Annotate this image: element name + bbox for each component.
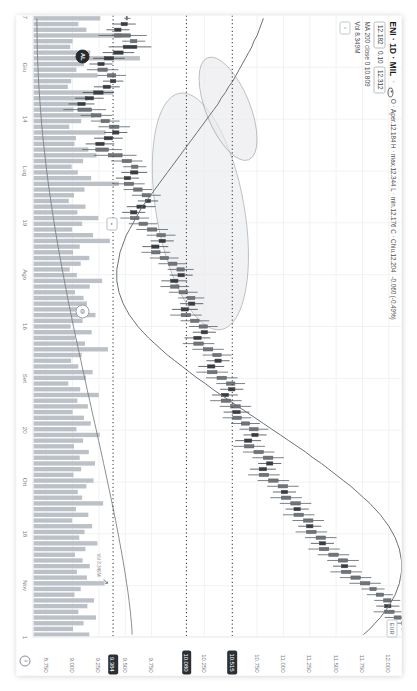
time-tick-label: 17 xyxy=(21,16,28,19)
time-tick-label: Giu xyxy=(21,63,28,73)
time-tick-label: Ago xyxy=(21,269,28,280)
price-tick-label: 11.750 xyxy=(359,655,366,673)
price-tick-label: 11.250 xyxy=(306,655,313,673)
price-tick-label: 9.500 xyxy=(121,658,128,673)
quote-badge[interactable]: 12.312 xyxy=(373,67,385,94)
price-tick-label: 9.250 xyxy=(95,658,102,673)
eye-chip-icon[interactable]: ◎ xyxy=(75,305,89,319)
time-tick-label: 18 xyxy=(21,530,28,537)
change-percent: 0.10 xyxy=(375,51,383,63)
time-tick-label: 19 xyxy=(21,219,28,226)
currency-badge: EUR xyxy=(386,620,397,638)
chart-legend: ENI · 1D · MIL · O · Aper.12.184 H · max… xyxy=(339,22,397,320)
magnet-chip[interactable]: AL xyxy=(75,50,89,64)
marker-note: Vol 8.349M xyxy=(95,554,100,577)
price-tick-label: 10.750 xyxy=(253,654,260,672)
screenshot-frame: 12.00011.75011.50011.25011.00010.75010.2… xyxy=(0,0,417,691)
last-price-pill[interactable]: 12.182 xyxy=(373,22,385,49)
time-tick-label: Ott xyxy=(21,478,28,486)
time-tick-label: Lug xyxy=(21,166,28,176)
ma-indicator-label[interactable]: MA 200 close 0 10.809 xyxy=(362,22,370,320)
time-tick-label: Nov xyxy=(21,580,28,591)
price-tick-label: 8.750 xyxy=(42,658,49,673)
price-level-badge[interactable]: 9.384 xyxy=(108,654,117,674)
ohlc-readout: O · Aper.12.184 H · max.12.344 L · min.1… xyxy=(388,99,396,272)
chart-app: 12.00011.75011.50011.25011.00010.75010.2… xyxy=(16,16,401,676)
price-tick-label: 11.500 xyxy=(332,655,339,673)
time-tick-label: 14 xyxy=(21,116,28,123)
price-level-badge[interactable]: 10.080 xyxy=(181,651,190,674)
rotated-phone-screen: 12.00011.75011.50011.25011.00010.75010.2… xyxy=(16,16,401,676)
time-tick-label: Set xyxy=(21,374,28,383)
legend-quote-row: 12.182 0.10 12.312 xyxy=(373,22,385,320)
arrow-up-icon: ↗ xyxy=(101,578,110,585)
price-level-badge[interactable]: 10.515 xyxy=(227,651,236,674)
price-tick-label: 12.000 xyxy=(385,654,392,672)
time-tick-label: 1 xyxy=(21,636,28,639)
price-axis[interactable]: 12.00011.75011.50011.25011.00010.75010.2… xyxy=(32,637,401,676)
legend-title-row[interactable]: ENI · 1D · MIL · O · Aper.12.184 H · max… xyxy=(387,22,397,320)
clock-icon[interactable] xyxy=(19,656,30,667)
time-axis[interactable]: 17Giu14Lug19Ago16Set20Ott18Nov1 xyxy=(16,16,33,638)
legend-separator: · xyxy=(387,80,397,83)
price-tick-label: 10.250 xyxy=(200,654,207,672)
measure-chip[interactable]: ▪ xyxy=(106,218,117,231)
time-tick-label: 20 xyxy=(21,427,28,434)
chevron-left-icon[interactable]: ‹ xyxy=(339,22,350,35)
change-readout: -0.060 (-0.49%) xyxy=(388,277,396,320)
eye-glyph: ◎ xyxy=(79,309,86,314)
price-tick-label: 9.750 xyxy=(148,658,155,673)
price-tick-label: 9.000 xyxy=(69,658,76,673)
time-tick-label: 16 xyxy=(21,323,28,330)
price-tick-label: 11.000 xyxy=(279,655,286,673)
symbol-label[interactable]: ENI · 1D · MIL xyxy=(387,22,397,77)
volume-indicator-label[interactable]: Vol 8.349M xyxy=(352,22,360,320)
eye-icon[interactable] xyxy=(388,87,396,95)
